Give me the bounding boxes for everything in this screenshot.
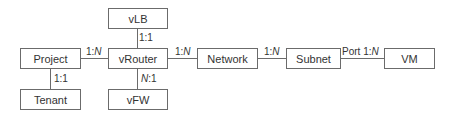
- node-label: Tenant: [34, 94, 67, 106]
- node-vfw: vFW: [108, 89, 168, 110]
- relationship-diagram: Project Tenant vLB vRouter vFW Network S…: [0, 0, 451, 118]
- cardinality-subnet-vm: Port 1:N: [342, 46, 379, 57]
- node-project: Project: [20, 48, 81, 69]
- node-label: vRouter: [119, 53, 158, 65]
- node-label: VM: [401, 53, 418, 65]
- node-network: Network: [197, 48, 258, 69]
- node-label: Network: [207, 53, 247, 65]
- node-label: Project: [33, 53, 67, 65]
- node-subnet: Subnet: [286, 48, 341, 69]
- node-label: vLB: [129, 13, 148, 25]
- node-vm: VM: [384, 48, 435, 69]
- node-label: Subnet: [296, 53, 331, 65]
- cardinality-project-tenant: 1:1: [54, 73, 68, 84]
- cardinality-vrouter-vlb: 1:1: [139, 32, 153, 43]
- cardinality-vrouter-vfw: N:1: [141, 73, 157, 84]
- node-label: vFW: [127, 94, 150, 106]
- node-vlb: vLB: [108, 8, 168, 29]
- node-vrouter: vRouter: [108, 48, 168, 69]
- cardinality-network-subnet: 1:N: [264, 46, 280, 57]
- cardinality-vrouter-network: 1:N: [175, 46, 191, 57]
- cardinality-project-vrouter: 1:N: [86, 46, 102, 57]
- node-tenant: Tenant: [20, 89, 81, 110]
